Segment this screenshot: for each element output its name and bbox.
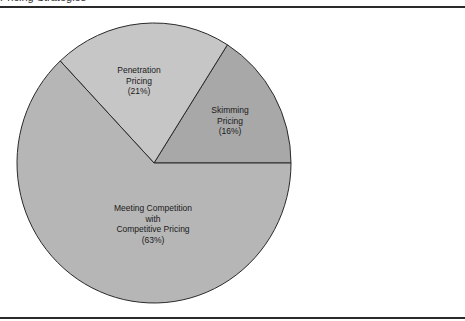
pie-chart: SkimmingPricing(16%)PenetrationPricing(2… xyxy=(0,0,465,321)
bottom-rule xyxy=(0,317,465,319)
